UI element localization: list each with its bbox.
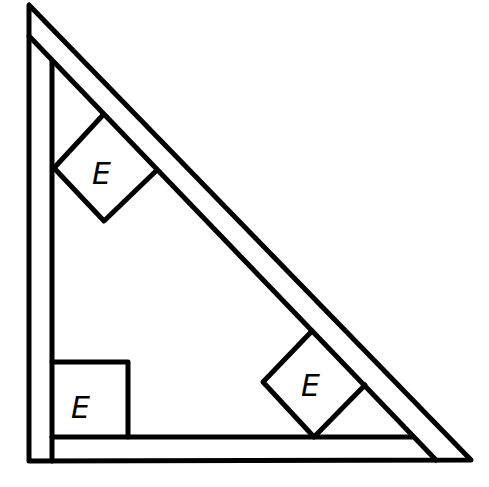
lower-diamond-label: E [301, 368, 320, 403]
triangle-diagram: E E E [0, 0, 489, 487]
corner-square-label: E [71, 390, 90, 425]
outer-triangle-frame [29, 5, 471, 461]
inner-hypotenuse-line [29, 36, 436, 460]
upper-diamond-label: E [92, 156, 111, 191]
corner-square-box [52, 362, 128, 437]
